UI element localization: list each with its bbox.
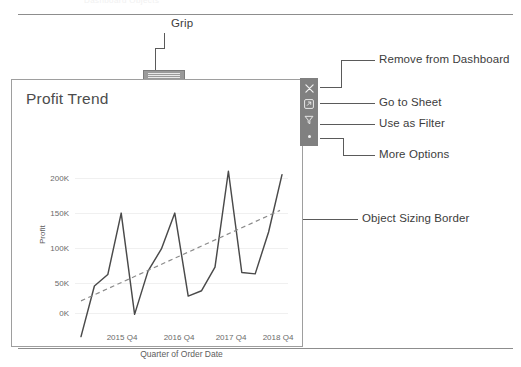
annotation-label-remove-from-dashboard: Remove from Dashboard xyxy=(379,53,510,65)
y-axis-tick-150k: 150K xyxy=(50,209,69,218)
series-trend-line xyxy=(81,210,280,300)
leader-grip-v1 xyxy=(164,33,165,48)
annotation-label-go-to-sheet: Go to Sheet xyxy=(379,96,441,108)
more-options-button[interactable] xyxy=(300,128,318,144)
x-axis-tick-2015q4: 2015 Q4 xyxy=(107,333,138,342)
leader-grip-v2 xyxy=(155,48,156,70)
more-options-icon xyxy=(308,135,311,138)
external-link-icon xyxy=(304,99,314,109)
leader-more-h1 xyxy=(320,138,343,139)
leader-more-v xyxy=(343,138,344,155)
grip-line-3 xyxy=(148,77,180,78)
x-axis-tick-2017q4: 2017 Q4 xyxy=(216,333,247,342)
object-toolbar[interactable] xyxy=(300,78,318,146)
dashboard-object-container[interactable]: Profit Trend Profit 200K 150K 100K 50K 0… xyxy=(11,79,303,347)
y-axis-title: Profit xyxy=(38,225,47,244)
series-profit-line xyxy=(81,171,282,336)
remove-from-dashboard-button[interactable] xyxy=(300,80,318,96)
x-axis-tick-2016q4: 2016 Q4 xyxy=(164,333,195,342)
leader-use-as-filter-h xyxy=(320,124,375,125)
cut-off-heading: Dashboard Objects xyxy=(84,0,194,6)
leader-grip-h xyxy=(155,48,165,49)
leader-sizing-border-h xyxy=(303,219,358,220)
y-axis-tick-50k: 50K xyxy=(55,279,69,288)
grip-line-2 xyxy=(148,75,180,76)
annotation-label-use-as-filter: Use as Filter xyxy=(379,117,445,129)
annotation-label-object-sizing-border: Object Sizing Border xyxy=(362,212,469,224)
leader-remove-h1 xyxy=(341,60,375,61)
leader-more-h2 xyxy=(343,155,375,156)
page-rule-top xyxy=(18,14,513,15)
x-axis-title: Quarter of Order Date xyxy=(75,349,288,359)
funnel-icon xyxy=(304,115,314,125)
y-axis-tick-0k: 0K xyxy=(59,309,69,318)
leader-go-to-sheet-h xyxy=(320,103,375,104)
annotation-label-grip: Grip xyxy=(171,17,193,29)
chart-plot-area: 200K 150K 100K 50K 0K 2015 Q4 2016 Q4 20… xyxy=(75,125,288,325)
x-axis-tick-2018q4: 2018 Q4 xyxy=(263,333,294,342)
y-axis-tick-200k: 200K xyxy=(50,174,69,183)
use-as-filter-button[interactable] xyxy=(300,112,318,128)
leader-remove-v xyxy=(341,60,342,87)
grip-line-1 xyxy=(148,73,180,74)
chart-series-svg xyxy=(75,113,288,325)
leader-remove-h2 xyxy=(320,87,342,88)
go-to-sheet-button[interactable] xyxy=(300,96,318,112)
y-axis-tick-100k: 100K xyxy=(50,244,69,253)
page-canvas: Dashboard Objects Grip Profit Trend Prof… xyxy=(0,0,521,367)
close-icon xyxy=(305,84,314,93)
annotation-label-more-options: More Options xyxy=(379,148,449,160)
page-title: Profit Trend xyxy=(26,90,109,108)
